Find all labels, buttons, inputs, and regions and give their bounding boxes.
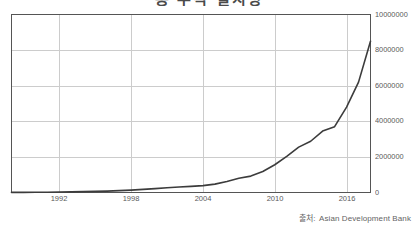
x-tick-label: 2004 — [184, 194, 222, 204]
y-tick-label: 10000000 — [375, 10, 408, 19]
x-tick-label: 1992 — [41, 194, 79, 204]
data-series-line — [12, 41, 371, 192]
y-tick-label: 0 — [375, 188, 379, 197]
x-tick-label: 2010 — [256, 194, 294, 204]
y-tick-label: 2000000 — [375, 152, 404, 161]
plot-frame — [12, 15, 371, 193]
x-tick-label: 1998 — [112, 194, 150, 204]
x-tick-label: 2016 — [328, 194, 366, 204]
source-attribution: 출처: Asian Development Bank — [299, 212, 411, 223]
horizontal-gridlines — [12, 51, 371, 158]
y-tick-label: 4000000 — [375, 116, 404, 125]
line-chart: 1000000080000006000000400000020000000 19… — [0, 0, 419, 230]
y-tick-label: 6000000 — [375, 81, 404, 90]
vertical-gridlines — [60, 15, 348, 193]
source-name: Asian Development Bank — [319, 214, 411, 223]
y-tick-label: 8000000 — [375, 45, 404, 54]
source-label: 출처: — [299, 214, 316, 223]
